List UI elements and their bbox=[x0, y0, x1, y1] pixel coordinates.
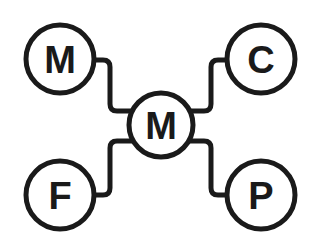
connector-bottom-left bbox=[95, 141, 133, 195]
node-top-left-label: M bbox=[44, 39, 76, 81]
node-bottom-right-label: P bbox=[248, 175, 273, 217]
hub-diagram: M C F P M bbox=[0, 0, 316, 236]
connector-top-left bbox=[95, 60, 133, 111]
node-center-label: M bbox=[145, 105, 177, 147]
connector-top-right bbox=[189, 60, 226, 111]
connector-bottom-right bbox=[189, 141, 226, 195]
node-top-right-label: C bbox=[247, 39, 274, 81]
node-bottom-left-label: F bbox=[48, 175, 71, 217]
